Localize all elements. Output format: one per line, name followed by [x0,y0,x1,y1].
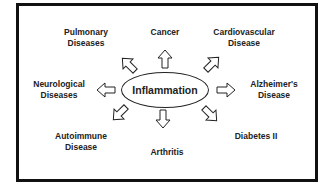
arrow-down-right-icon [199,103,222,126]
arrow-down-left-icon [108,102,131,125]
node-pulmonary: Pulmonary Diseases [64,27,108,49]
arrow-left-icon [97,83,115,97]
inflammation-node: Inflammation [121,72,209,108]
arrow-right-icon [217,83,235,97]
arrow-down-icon [156,110,170,128]
arrow-up-icon [158,50,172,68]
arrow-up-left-icon [117,53,140,76]
node-neurological: Neurological Diseases [33,79,84,101]
inflammation-label: Inflammation [132,84,197,96]
node-cancer: Cancer [151,27,180,38]
arrow-up-right-icon [201,52,224,75]
node-arthritis: Arthritis [150,147,183,158]
node-autoimmune: Autoimmune Disease [55,131,107,153]
node-cardiovascular: Cardiovascular Disease [213,27,274,49]
node-alzheimers: Alzheimer's Disease [250,79,297,101]
node-diabetes: Diabetes II [235,131,278,142]
